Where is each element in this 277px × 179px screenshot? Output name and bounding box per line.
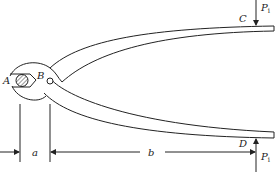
label-c-point: C — [239, 13, 247, 24]
label-d-point: D — [238, 138, 247, 149]
force-arrow-top: Pi — [256, 0, 271, 25]
dimension-a-label: a — [32, 147, 38, 158]
lower-handle — [12, 78, 274, 138]
upper-handle — [10, 26, 274, 82]
force-arrow-bottom: Pi — [256, 139, 271, 172]
clamped-object — [16, 75, 28, 87]
pliers-diagram: A B C D Pi Pi a b — [0, 0, 277, 179]
label-b-point: B — [36, 70, 44, 81]
dimension-b-label: b — [148, 147, 154, 158]
force-bottom-label: Pi — [260, 151, 271, 164]
label-a-point: A — [2, 75, 10, 86]
pivot-b — [47, 78, 53, 84]
force-top-label: Pi — [260, 2, 271, 15]
